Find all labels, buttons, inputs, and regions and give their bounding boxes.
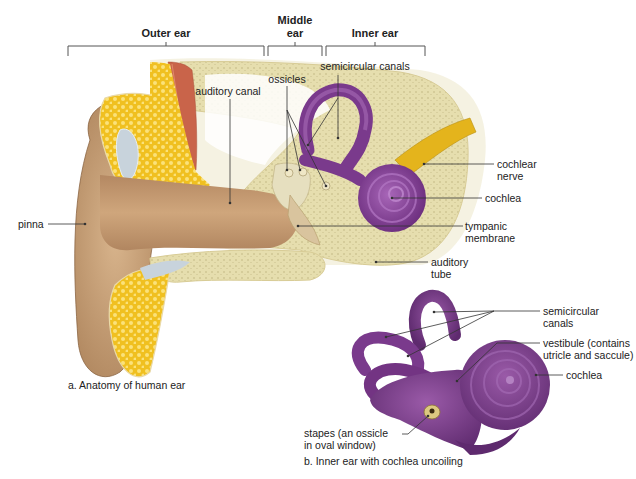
label-tympanic-membrane-line2: membrane xyxy=(465,232,515,244)
label-vestibule-line2: utricle and saccule) xyxy=(543,349,633,361)
label-auditory-tube-line2: tube xyxy=(431,268,452,280)
label-semicircular-canals-b-line2: canals xyxy=(543,317,573,329)
label-stapes-line1: stapes (an ossicle xyxy=(304,427,388,439)
label-cochlea-b: cochlea xyxy=(566,369,602,381)
label-semicircular-canals: semicircular canals xyxy=(320,60,409,72)
ear-anatomy-figure: Outer ear Middle ear Inner ear xyxy=(0,0,636,479)
middle-ear-header-line1: Middle xyxy=(278,14,313,26)
label-cochlea-a: cochlea xyxy=(485,192,521,204)
inner-ear-header: Inner ear xyxy=(352,27,399,39)
label-pinna: pinna xyxy=(18,218,44,230)
caption-a: a. Anatomy of human ear xyxy=(68,379,186,391)
outer-ear-header: Outer ear xyxy=(142,27,192,39)
label-ossicles: ossicles xyxy=(268,73,305,85)
label-tympanic-membrane-line1: tympanic xyxy=(465,220,507,232)
middle-ear-header-line2: ear xyxy=(287,27,304,39)
label-auditory-canal: auditory canal xyxy=(195,85,260,97)
region-brackets xyxy=(68,42,425,56)
label-semicircular-canals-b-line1: semicircular xyxy=(543,305,600,317)
label-cochlear-nerve-line1: cochlear xyxy=(497,158,537,170)
caption-b: b. Inner ear with cochlea uncoiling xyxy=(304,455,463,467)
outer-ear-illustration xyxy=(75,58,486,376)
label-stapes-line2: in oval window) xyxy=(304,439,376,451)
label-cochlear-nerve-line2: nerve xyxy=(497,170,523,182)
label-auditory-tube-line1: auditory xyxy=(431,256,469,268)
label-vestibule-line1: vestibule (contains xyxy=(543,337,630,349)
